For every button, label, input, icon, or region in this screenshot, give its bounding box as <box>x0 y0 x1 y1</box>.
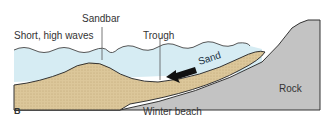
waves-label: Short, high waves <box>14 31 94 41</box>
panel-letter: B <box>14 107 21 116</box>
sandbar-label: Sandbar <box>82 14 120 24</box>
caption: Winter beach <box>143 107 202 117</box>
trough-label: Trough <box>143 31 174 41</box>
beach-profile-diagram <box>0 0 332 119</box>
rock-label: Rock <box>279 84 302 94</box>
